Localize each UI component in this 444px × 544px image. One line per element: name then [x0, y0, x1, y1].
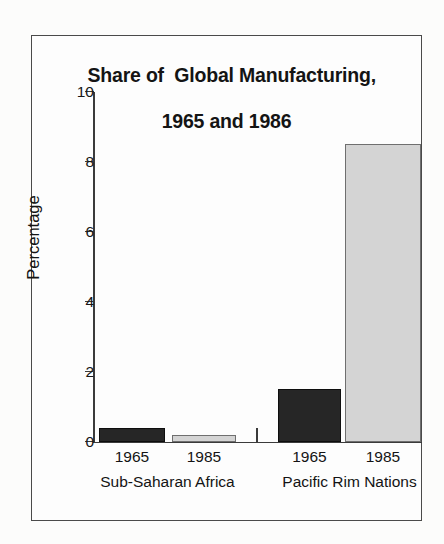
- x-axis-group-label: Pacific Rim Nations: [278, 473, 421, 491]
- group-separator-tick: [256, 428, 258, 442]
- y-axis-title: Percentage: [24, 158, 43, 318]
- x-axis-year-label: 1965: [278, 448, 341, 466]
- y-axis-tick-label: 10: [54, 83, 94, 101]
- bar: [172, 435, 236, 442]
- y-axis-tick-label: 4: [54, 293, 94, 311]
- y-axis-tick-label: 2: [54, 363, 94, 381]
- y-axis-tick-label: 6: [54, 223, 94, 241]
- y-axis-line: [93, 92, 95, 443]
- x-axis-year-label: 1985: [172, 448, 236, 466]
- bar: [99, 428, 165, 442]
- bar: [278, 389, 341, 442]
- bar: [345, 144, 421, 442]
- y-axis-tick-label: 8: [54, 153, 94, 171]
- y-axis-tick-label: 0: [54, 433, 94, 451]
- x-axis-group-label: Sub-Saharan Africa: [99, 473, 236, 491]
- chart-plot-area: 0246810 Percentage 19651985Sub-Saharan A…: [0, 0, 444, 544]
- x-axis-year-label: 1985: [345, 448, 421, 466]
- x-axis-year-label: 1965: [99, 448, 165, 466]
